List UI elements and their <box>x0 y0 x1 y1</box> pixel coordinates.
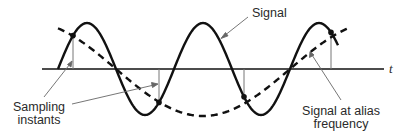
sampling-leader-line-2 <box>72 85 154 104</box>
alias-label-line1: Signal at alias <box>302 104 380 118</box>
alias-signal-curve <box>58 28 347 116</box>
sampling-label-line2: instants <box>17 113 60 127</box>
axis-label-t: t <box>389 61 393 76</box>
sample-point <box>156 100 162 106</box>
sample-point <box>70 33 76 39</box>
sampling-arrowhead-2 <box>152 83 159 88</box>
sampling-instants <box>73 32 331 102</box>
signal-leader-line <box>224 17 248 36</box>
alias-leader-line <box>312 55 341 100</box>
sample-points <box>70 30 334 106</box>
sample-point <box>328 30 334 36</box>
alias-label-line2: frequency <box>314 117 370 131</box>
aliasing-diagram: t Signal Sampling instants Signal at ali… <box>0 0 406 137</box>
signal-label: Signal <box>252 6 287 20</box>
sample-point <box>241 94 247 100</box>
sampling-label-line1: Sampling <box>13 100 65 114</box>
